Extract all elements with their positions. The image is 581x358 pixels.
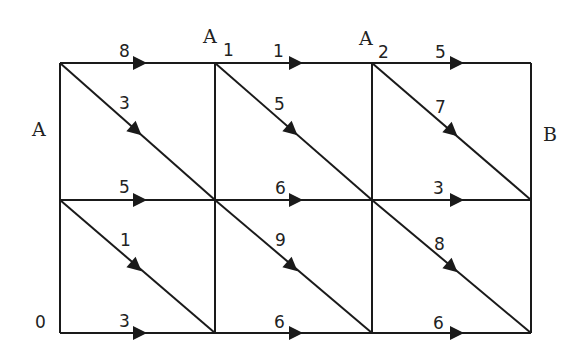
node-label-a: A [31, 118, 46, 140]
weight-upper-diag-0: 3 [119, 93, 130, 113]
weight-middle-0: 5 [119, 177, 130, 197]
weight-lower-diag-1: 9 [275, 230, 286, 250]
weight-middle-1: 6 [275, 178, 286, 198]
weight-bottom-0: 3 [119, 311, 130, 331]
arrow-icon [133, 56, 147, 70]
arrow-icon [133, 326, 147, 340]
node-label-a2: A [358, 27, 373, 49]
weight-upper-diag-1: 5 [274, 94, 285, 114]
node-label-a1-subscript: 1 [223, 40, 234, 60]
weight-top-2: 5 [435, 42, 446, 62]
node-label-a2-subscript: 2 [378, 42, 389, 62]
graph-diagram: 8 1 5 5 6 3 3 6 6 3 5 7 1 9 8 A A 1 A 2 … [0, 0, 581, 358]
weight-upper-diag-2: 7 [435, 97, 446, 117]
arrow-icon [289, 326, 303, 340]
arrow-icon [289, 193, 303, 207]
node-label-a1: A [202, 25, 217, 47]
node-label-origin: 0 [35, 312, 46, 332]
weight-lower-diag-2: 8 [434, 234, 445, 254]
weight-bottom-1: 6 [274, 312, 285, 332]
weight-lower-diag-0: 1 [120, 230, 131, 250]
weight-bottom-2: 6 [433, 313, 444, 333]
arrow-icon [450, 326, 464, 340]
weight-top-0: 8 [119, 41, 130, 61]
weight-top-1: 1 [273, 41, 284, 61]
arrow-icon [450, 56, 464, 70]
arrow-icon [450, 193, 464, 207]
arrow-icon [133, 193, 147, 207]
arrow-icon [289, 56, 303, 70]
weight-middle-2: 3 [433, 178, 444, 198]
node-label-b: B [543, 123, 557, 145]
